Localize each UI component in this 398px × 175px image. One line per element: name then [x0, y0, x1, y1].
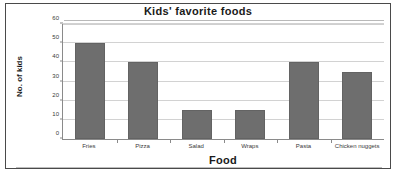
x-axis-title: Food [62, 154, 384, 166]
x-tick-label: Pizza [116, 143, 170, 150]
y-tick-label: 30 [52, 73, 59, 79]
chart-title: Kids' favorite foods [6, 5, 390, 17]
bar[interactable] [289, 62, 319, 139]
y-tick-label: 0 [56, 130, 59, 136]
x-tick-label: Chicken nuggets [330, 143, 384, 150]
y-tick-label: 60 [52, 15, 59, 21]
x-axis-divider [16, 167, 382, 168]
y-tick-label: 40 [52, 53, 59, 59]
y-tick-label: 50 [52, 34, 59, 40]
title-divider [64, 20, 384, 21]
bar[interactable] [182, 110, 212, 139]
y-tick-label: 10 [52, 111, 59, 117]
bar[interactable] [75, 43, 105, 139]
chart-frame: Kids' favorite foods No. of kids 0102030… [5, 3, 391, 169]
bar-slot [331, 24, 385, 139]
bar-slot [170, 24, 224, 139]
bar-slot [277, 24, 331, 139]
bar[interactable] [342, 72, 372, 139]
bar-slot [117, 24, 171, 139]
x-tick-label: Pasta [277, 143, 331, 150]
x-tick-label: Wraps [223, 143, 277, 150]
bar[interactable] [235, 110, 265, 139]
bar[interactable] [128, 62, 158, 139]
plot-area: 0102030405060 [62, 24, 384, 140]
bar-slot [224, 24, 278, 139]
y-axis-title: No. of kids [15, 42, 24, 112]
bar-slot [63, 24, 117, 139]
x-tick-label: Fries [62, 143, 116, 150]
x-tick-label: Salad [169, 143, 223, 150]
y-tick-label: 20 [52, 92, 59, 98]
